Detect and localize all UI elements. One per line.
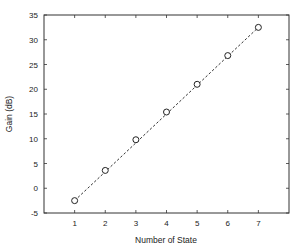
y-tick-label: 0 — [34, 184, 39, 193]
x-tick-label: 4 — [164, 219, 169, 228]
y-tick-label: 10 — [29, 135, 38, 144]
x-tick-label: 6 — [226, 219, 231, 228]
x-tick-label: 1 — [72, 219, 77, 228]
x-tick-label: 3 — [134, 219, 139, 228]
x-tick-label: 2 — [103, 219, 108, 228]
y-tick-label: 35 — [29, 11, 38, 20]
data-point — [72, 198, 78, 204]
plot-area: 1234567-505101520253035 — [29, 11, 289, 228]
x-axis-label: Number of State — [135, 235, 197, 245]
data-point — [164, 109, 170, 115]
y-tick-label: 15 — [29, 110, 38, 119]
x-tick-label: 7 — [256, 219, 261, 228]
data-point — [255, 24, 261, 30]
x-tick-label: 5 — [195, 219, 200, 228]
chart: 1234567-505101520253035 Number of State … — [0, 0, 301, 251]
y-tick-label: 30 — [29, 36, 38, 45]
data-point — [133, 137, 139, 143]
y-tick-label: 20 — [29, 85, 38, 94]
data-point — [102, 167, 108, 173]
y-tick-label: 5 — [34, 160, 39, 169]
data-point — [194, 81, 200, 87]
data-point — [225, 53, 231, 59]
y-axis-label: Gain (dB) — [4, 96, 14, 133]
y-tick-label: 25 — [29, 61, 38, 70]
y-tick-label: -5 — [31, 209, 39, 218]
